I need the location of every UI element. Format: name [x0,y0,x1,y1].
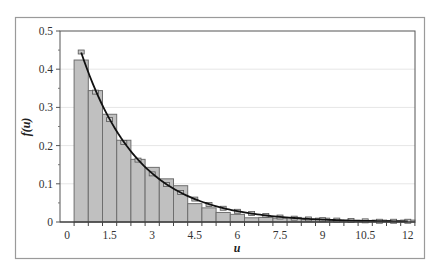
x-tick-label: 1.5 [102,229,117,241]
histogram-chart: 00.10.20.30.40.5 01.534.567.5910.512 f(u… [0,0,438,274]
x-tick-label: 0 [64,229,70,241]
x-tick-label: 7.5 [273,229,288,241]
x-tick-label: 12 [402,229,414,241]
histogram-bar [216,212,230,222]
y-tick-label: 0.5 [39,25,54,37]
x-tick-label: 3 [149,229,155,241]
histogram-bar [103,114,117,222]
histogram-bar [202,208,216,222]
x-axis-title: u [234,241,241,255]
histogram-bar [74,60,88,222]
histogram-bar [88,91,102,222]
x-tick-label: 9 [320,229,326,241]
y-axis-title: f(u) [19,118,33,137]
x-tick-label: 6 [235,229,241,241]
x-tick-label: 4.5 [188,229,203,241]
histogram-bar [245,218,259,222]
y-tick-label: 0 [47,216,53,228]
y-tick-label: 0.3 [39,101,54,113]
histogram-bar [131,159,145,222]
y-tick-label: 0.2 [39,140,54,152]
y-tick-label: 0.4 [39,63,54,75]
x-tick-label: 10.5 [355,229,375,241]
histogram-bar [259,217,273,222]
histogram-bar [230,214,244,222]
histogram-bar [117,140,131,222]
histogram-bar [188,204,202,222]
y-tick-label: 0.1 [39,178,54,190]
